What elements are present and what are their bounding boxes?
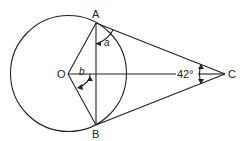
tangent-ac <box>96 23 225 74</box>
tangent-bc <box>96 74 225 125</box>
angle-label-a: a <box>104 37 110 48</box>
label-a: A <box>92 8 100 20</box>
angle-label-c: 42° <box>177 68 194 80</box>
arrow-c1-icon <box>198 64 204 69</box>
angle-label-b: b <box>79 66 85 77</box>
arrow-b1-icon <box>87 76 93 81</box>
label-b: B <box>92 128 99 140</box>
radius-ob <box>68 74 96 125</box>
geometry-diagram: A B O C a b 42° <box>0 0 243 141</box>
arrow-b2-icon <box>77 84 83 90</box>
label-o: O <box>57 68 66 80</box>
arrow-c2-icon <box>198 79 204 84</box>
label-c: C <box>228 68 236 80</box>
